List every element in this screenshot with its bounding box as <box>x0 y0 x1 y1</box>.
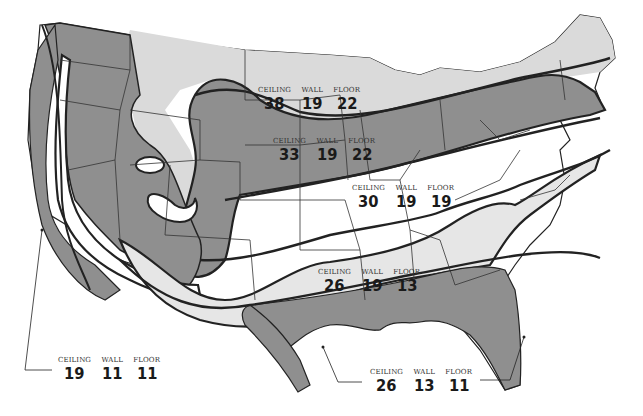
wall-value: 19 <box>362 277 382 294</box>
leader-dot-west <box>41 229 44 232</box>
zone-label-north-central: CEILING33 WALL19 FLOOR22 <box>273 137 375 163</box>
floor-value: 19 <box>430 193 450 210</box>
zone-label-central: CEILING30 WALL19 FLOOR19 <box>352 184 454 210</box>
zone-label-north: CEILING38 WALL19 FLOOR22 <box>258 86 360 112</box>
leader-dot-gulf-left <box>322 346 325 349</box>
leader-dot-gulf-right <box>523 336 526 339</box>
leader-west-coast <box>25 230 52 370</box>
floor-value: 22 <box>336 95 356 112</box>
wall-value: 13 <box>414 377 434 394</box>
zone-label-south-central: CEILING26 WALL19 FLOOR13 <box>318 268 420 294</box>
zone-label-gulf-coast: CEILING26 WALL13 FLOOR11 <box>370 368 472 394</box>
insulation-zone-map <box>0 0 643 416</box>
wall-value: 19 <box>317 146 337 163</box>
ceiling-value: 26 <box>324 277 344 294</box>
floor-value: 22 <box>351 146 371 163</box>
leader-gulf-left <box>323 347 362 382</box>
wall-value: 11 <box>102 365 122 382</box>
wall-value: 19 <box>302 95 322 112</box>
ceiling-value: 26 <box>376 377 396 394</box>
zone-label-west-coast: CEILING19 WALL11 FLOOR11 <box>58 356 160 382</box>
ceiling-value: 19 <box>64 365 84 382</box>
wall-value: 19 <box>396 193 416 210</box>
ceiling-value: 30 <box>358 193 378 210</box>
floor-value: 11 <box>448 377 468 394</box>
floor-value: 13 <box>396 277 416 294</box>
white-enclave-1 <box>136 157 164 173</box>
ceiling-value: 38 <box>264 95 284 112</box>
floor-value: 11 <box>136 365 156 382</box>
ceiling-value: 33 <box>279 146 299 163</box>
